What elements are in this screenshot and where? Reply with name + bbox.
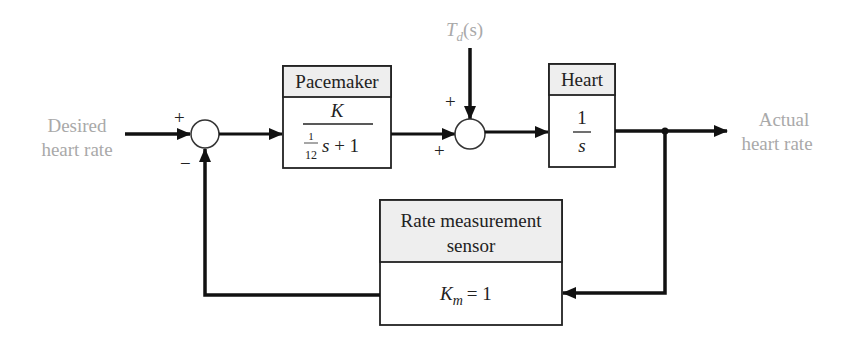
pacemaker-small-frac-num: 1	[308, 130, 314, 142]
svg-text:heart rate: heart rate	[41, 139, 112, 160]
disturbance-label: Td(s)	[446, 19, 483, 44]
svg-text:heart rate: heart rate	[741, 133, 812, 154]
summing-junction-2	[455, 119, 485, 149]
sensor-title-line2: sensor	[447, 235, 496, 256]
block-diagram: Desired heart rate + − Pacemaker K 1 12 …	[0, 0, 853, 346]
sensor-title-line1: Rate measurement	[401, 210, 543, 231]
sum2-left-plus-sign: +	[434, 140, 445, 161]
feedback-path-left	[205, 149, 380, 295]
heart-numerator: 1	[577, 107, 587, 128]
rate-sensor-block: Rate measurement sensor Km= 1	[380, 200, 562, 325]
sum1-plus-sign: +	[174, 107, 185, 128]
pacemaker-block: Pacemaker K 1 12 s + 1	[283, 66, 391, 168]
svg-text:Desired: Desired	[47, 115, 107, 136]
pacemaker-title: Pacemaker	[295, 71, 379, 92]
sum1-minus-sign: −	[180, 153, 191, 174]
heart-title: Heart	[561, 69, 604, 90]
output-label: Actual heart rate	[741, 109, 812, 154]
summing-junction-1	[191, 120, 219, 148]
svg-text:Actual: Actual	[759, 109, 810, 130]
heart-block: Heart 1 s	[549, 64, 615, 167]
sum2-top-plus-sign: +	[445, 91, 456, 112]
heart-denominator: s	[578, 135, 585, 156]
pacemaker-numerator: K	[330, 100, 345, 121]
pacemaker-small-frac-den: 12	[305, 148, 317, 162]
pacemaker-denominator-rest: s + 1	[322, 135, 359, 156]
input-label: Desired heart rate	[41, 115, 112, 160]
